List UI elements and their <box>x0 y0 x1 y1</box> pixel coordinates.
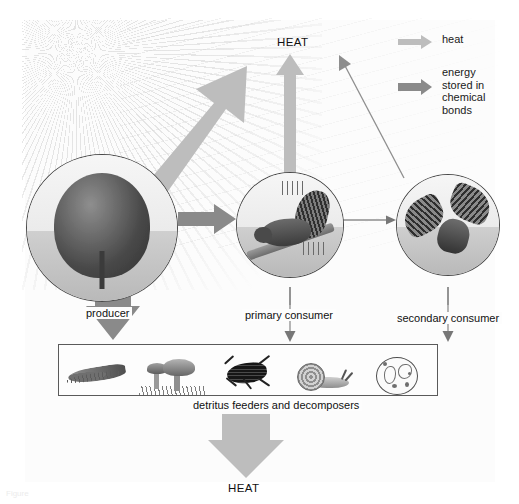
beetle-leg-icon <box>258 377 270 386</box>
legend-label-energy: energy stored in chemical bonds <box>442 66 485 116</box>
label-secondary-consumer: secondary consumer <box>394 312 502 324</box>
heat-arrow-bottom <box>208 414 284 478</box>
microbe-icon <box>383 362 387 366</box>
organism-beetle <box>215 351 281 395</box>
legend-energy-line-1: energy <box>442 66 476 78</box>
organism-microbes <box>366 351 432 395</box>
beetle-leg-icon <box>224 355 234 364</box>
snail-icon <box>297 363 325 391</box>
organism-mushrooms <box>139 351 205 395</box>
legend-item-energy: energy stored in chemical bonds <box>398 66 485 116</box>
energy-arrow-producer-to-primary <box>178 204 236 234</box>
snail-antenna-icon <box>344 372 353 381</box>
right-arrow-icon <box>398 34 434 50</box>
heat-label-bottom: HEAT <box>228 482 259 494</box>
figure-caption: Figure <box>6 489 29 498</box>
microbe-icon <box>384 366 396 384</box>
node-producer-circle[interactable] <box>26 154 178 302</box>
leaf-icon <box>303 242 328 256</box>
earthworm-icon <box>67 363 126 386</box>
label-leader-lines <box>290 287 448 305</box>
microbe-icon <box>392 384 397 388</box>
legend-energy-line-4: bonds <box>442 104 472 116</box>
heat-arrow-middle <box>276 54 304 178</box>
organism-earthworm <box>64 351 130 395</box>
microbe-icon <box>405 382 409 387</box>
node-secondary-consumer-circle[interactable] <box>396 174 500 276</box>
beetle-leg-icon <box>258 355 270 365</box>
organism-snail <box>291 351 357 395</box>
heat-label-top: HEAT <box>277 36 308 48</box>
detritus-box[interactable] <box>58 344 438 396</box>
legend: heat energy stored in chemical bonds <box>398 33 485 116</box>
microbe-dish-icon <box>376 357 418 395</box>
heat-arrow-secondary-consumer <box>339 55 404 178</box>
label-producer: producer <box>83 307 132 319</box>
legend-label-heat: heat <box>442 33 463 45</box>
label-detritus: detritus feeders and decomposers <box>190 399 362 411</box>
energy-arrow-primary-to-secondary <box>340 216 396 225</box>
tree-trunk-icon <box>100 251 105 289</box>
legend-energy-line-2: stored in <box>442 79 484 91</box>
label-primary-consumer: primary consumer <box>242 309 336 321</box>
right-arrow-icon <box>398 79 434 95</box>
node-primary-consumer-circle[interactable] <box>236 172 344 278</box>
leaf-icon <box>282 181 307 195</box>
figure-canvas: HEAT HEAT producer primary consumer seco… <box>0 0 519 504</box>
squirrel-head-icon <box>254 227 272 243</box>
mushroom-icon <box>163 359 195 391</box>
legend-item-heat: heat <box>398 33 485 50</box>
legend-energy-line-3: chemical <box>442 91 485 103</box>
